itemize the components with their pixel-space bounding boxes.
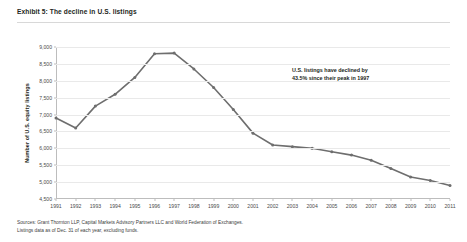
data-point-marker — [74, 127, 77, 130]
y-axis-tick-mark — [54, 63, 56, 64]
chart-annotation: U.S. listings have declined by 43.5% sin… — [292, 66, 369, 83]
grid-line — [56, 182, 450, 183]
x-axis-tick-label: 1999 — [208, 203, 219, 209]
x-axis-tick-mark — [331, 199, 332, 201]
x-axis-tick-mark — [193, 199, 194, 201]
plot-area: 9,0008,5008,0007,5007,0006,5006,0005,500… — [56, 47, 450, 199]
grid-line — [56, 148, 450, 149]
x-axis-tick-label: 2003 — [287, 203, 298, 209]
data-point-marker — [212, 86, 215, 89]
data-point-marker — [55, 116, 58, 119]
y-axis-tick-label: 4,500 — [39, 196, 52, 202]
data-point-marker — [370, 159, 373, 162]
y-axis-tick-mark — [54, 47, 56, 48]
x-axis-tick-mark — [390, 199, 391, 201]
x-axis-tick-label: 2002 — [267, 203, 278, 209]
x-axis-tick-mark — [154, 199, 155, 201]
x-axis-tick-mark — [115, 199, 116, 201]
y-axis-tick-mark — [54, 131, 56, 132]
grid-line — [56, 47, 450, 48]
x-axis-tick-label: 2001 — [247, 203, 258, 209]
x-axis-tick-mark — [450, 199, 451, 201]
x-axis-tick-mark — [371, 199, 372, 201]
data-point-marker — [350, 154, 353, 157]
x-axis-tick-mark — [410, 199, 411, 201]
data-point-marker — [94, 105, 97, 108]
y-axis-tick-label: 8,000 — [39, 78, 52, 84]
data-point-marker — [114, 93, 117, 96]
x-axis-tick-label: 2005 — [326, 203, 337, 209]
x-axis-tick-mark — [56, 199, 57, 201]
y-axis-tick-label: 9,000 — [39, 44, 52, 50]
y-axis-tick-mark — [54, 165, 56, 166]
x-axis-tick-label: 1994 — [109, 203, 120, 209]
footnote-listings-note: Listings data as of Dec. 31 of each year… — [17, 227, 243, 235]
x-axis-tick-label: 1995 — [129, 203, 140, 209]
data-point-marker — [330, 150, 333, 153]
data-point-marker — [153, 52, 156, 55]
y-axis-tick-label: 7,500 — [39, 95, 52, 101]
y-axis-tick-label: 6,500 — [39, 128, 52, 134]
x-axis-tick-label: 1997 — [169, 203, 180, 209]
y-axis-tick-label: 5,000 — [39, 179, 52, 185]
title-divider — [17, 22, 450, 23]
grid-line — [56, 115, 450, 116]
x-axis-tick-mark — [292, 199, 293, 201]
x-axis-tick-mark — [174, 199, 175, 201]
x-axis-tick-label: 2000 — [228, 203, 239, 209]
x-axis-tick-mark — [213, 199, 214, 201]
x-axis-tick-mark — [272, 199, 273, 201]
y-axis-title: Number of U.S. equity listings — [22, 47, 32, 199]
x-axis-tick-label: 2009 — [405, 203, 416, 209]
x-axis-tick-label: 1996 — [149, 203, 160, 209]
x-axis-tick-label: 2006 — [346, 203, 357, 209]
grid-line — [56, 165, 450, 166]
data-point-marker — [232, 108, 235, 111]
data-point-marker — [133, 76, 136, 79]
x-axis-tick-label: 2007 — [366, 203, 377, 209]
grid-line — [56, 81, 450, 82]
y-axis-title-label: Number of U.S. equity listings — [24, 83, 30, 163]
grid-line — [56, 131, 450, 132]
x-axis-tick-label: 2011 — [445, 203, 456, 209]
y-axis-tick-label: 6,000 — [39, 145, 52, 151]
data-point-marker — [173, 52, 176, 55]
y-axis-tick-label: 7,000 — [39, 112, 52, 118]
y-axis-tick-mark — [54, 114, 56, 115]
x-axis-tick-label: 2008 — [385, 203, 396, 209]
x-axis-tick-label: 2004 — [306, 203, 317, 209]
x-axis-tick-label: 1991 — [50, 203, 61, 209]
data-point-marker — [449, 184, 452, 187]
x-axis-tick-label: 2010 — [425, 203, 436, 209]
source-footnotes: Sources: Grant Thornton LLP, Capital Mar… — [17, 219, 243, 235]
grid-line — [56, 98, 450, 99]
data-point-marker — [271, 143, 274, 146]
y-axis-tick-mark — [54, 97, 56, 98]
x-axis-tick-mark — [351, 199, 352, 201]
x-axis-tick-label: 1998 — [188, 203, 199, 209]
y-axis-tick-mark — [54, 182, 56, 183]
data-point-marker — [409, 176, 412, 179]
grid-line — [56, 64, 450, 65]
y-axis-tick-mark — [54, 80, 56, 81]
data-point-marker — [389, 167, 392, 170]
page-title: Exhibit 5: The decline in U.S. listings — [17, 8, 137, 15]
x-axis-tick-mark — [134, 199, 135, 201]
exhibit-chart-page: Exhibit 5: The decline in U.S. listings … — [0, 0, 467, 242]
y-axis-tick-label: 8,500 — [39, 61, 52, 67]
y-axis-tick-mark — [54, 148, 56, 149]
x-axis-tick-mark — [233, 199, 234, 201]
x-axis-tick-mark — [253, 199, 254, 201]
y-axis-tick-label: 5,500 — [39, 162, 52, 168]
footnote-sources: Sources: Grant Thornton LLP, Capital Mar… — [17, 219, 243, 227]
x-axis-tick-mark — [430, 199, 431, 201]
line-series-listings — [56, 47, 450, 199]
x-axis-tick-label: 1993 — [90, 203, 101, 209]
x-axis-tick-label: 1992 — [70, 203, 81, 209]
x-axis-tick-mark — [312, 199, 313, 201]
data-point-marker — [192, 67, 195, 70]
x-axis-tick-mark — [95, 199, 96, 201]
x-axis-tick-mark — [75, 199, 76, 201]
